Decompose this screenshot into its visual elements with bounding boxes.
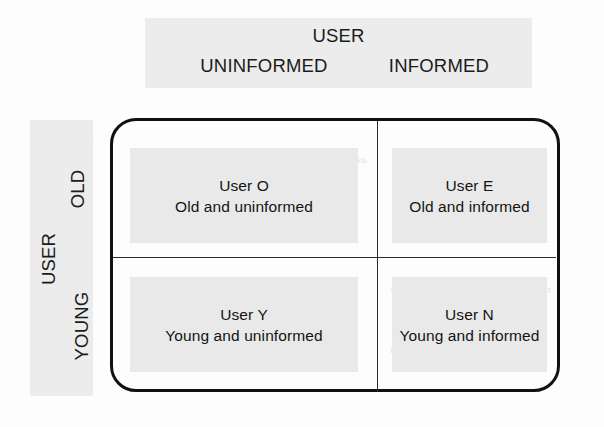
column-label-uninformed: UNINFORMED [179,55,349,77]
cell-persona-description: Young and uninformed [165,325,322,346]
cell-persona-description: Old and uninformed [175,196,313,217]
matrix-cell-young-uninformed[interactable]: User Y Young and uninformed [130,277,358,372]
matrix-cell-old-uninformed[interactable]: User O Old and uninformed [130,148,358,243]
cell-persona-name: User Y [220,304,268,325]
column-axis-title: USER [312,25,364,46]
persona-matrix: User O Old and uninformed User E Old and… [110,118,560,392]
matrix-cell-young-informed[interactable]: User N Young and informed [392,277,547,372]
row-axis-title: USER [38,214,60,304]
column-header-band: USER UNINFORMED INFORMED [145,18,532,88]
cell-persona-name: User N [445,304,494,325]
matrix-divider-horizontal [113,257,556,258]
figure-canvas: the specific tasks and process of intera… [0,0,604,427]
cell-persona-description: Old and informed [409,196,530,217]
row-label-young: YOUNG [71,268,93,384]
row-label-old: OLD [67,144,89,234]
cell-persona-description: Young and informed [400,325,540,346]
column-axis-title-row: USER [145,25,532,47]
row-header-band: USER OLD YOUNG [30,120,93,396]
matrix-cell-old-informed[interactable]: User E Old and informed [392,148,547,243]
column-header-labels: UNINFORMED INFORMED [145,55,532,83]
cell-persona-name: User O [219,175,269,196]
column-label-informed: INFORMED [364,55,514,77]
cell-persona-name: User E [446,175,494,196]
